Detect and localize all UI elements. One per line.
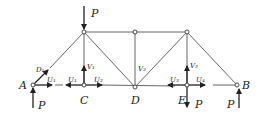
node-d xyxy=(133,85,137,89)
label-d1: D₁ xyxy=(35,66,45,74)
label-v2: V₂ xyxy=(138,65,146,73)
label-u1-a: U₁ xyxy=(47,76,56,84)
truss-diagram: P A P C D E P P B D₁ U₁ U₁ U₂ V₁ V₂ U₃ V… xyxy=(0,0,262,115)
label-u2: U₂ xyxy=(94,76,103,84)
force-arrows xyxy=(33,6,239,108)
label-u4: U₄ xyxy=(196,76,205,84)
label-u3: U₃ xyxy=(170,76,179,84)
node-a xyxy=(31,83,35,87)
member-upper-left-diagonal xyxy=(50,32,84,68)
label-reaction-a: P xyxy=(37,99,46,112)
label-node-e: E xyxy=(177,94,186,107)
label-top-load: P xyxy=(90,7,99,20)
label-reaction-b: P xyxy=(226,98,235,111)
label-node-a: A xyxy=(18,79,27,92)
node-e xyxy=(185,83,189,87)
labels: P A P C D E P P B D₁ U₁ U₁ U₂ V₁ V₂ U₃ V… xyxy=(18,7,250,112)
label-v1: V₁ xyxy=(87,63,95,71)
label-load-e: P xyxy=(194,98,203,111)
node-c xyxy=(82,83,86,87)
node-b xyxy=(235,83,239,87)
member-bottom-cd-de xyxy=(100,85,175,86)
label-v3: V₃ xyxy=(190,62,198,70)
label-node-d: D xyxy=(130,94,140,107)
label-node-b: B xyxy=(241,79,250,92)
node-top-left xyxy=(82,30,86,34)
node-top-mid xyxy=(133,30,137,34)
node-top-right xyxy=(185,30,189,34)
member-diagonal-eb xyxy=(187,32,237,85)
member-diagonal-de xyxy=(135,32,187,87)
truss-members xyxy=(50,32,237,87)
member-diagonal-cd xyxy=(84,32,135,87)
label-node-c: C xyxy=(80,94,89,107)
label-u1-c: U₁ xyxy=(68,76,77,84)
